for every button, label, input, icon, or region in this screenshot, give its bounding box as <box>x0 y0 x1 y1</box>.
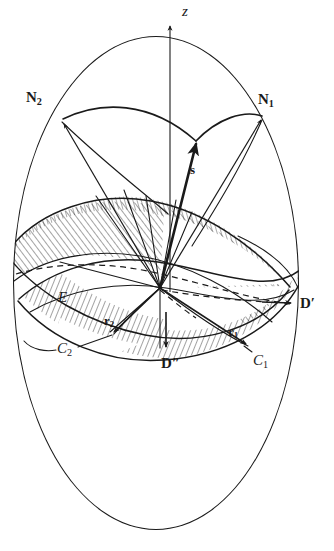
label-c1-subscript: 1 <box>263 359 268 370</box>
d-prime-vector <box>262 302 291 303</box>
figure-root: z N2 N1 s E r2 r1 C2 C1 D′ D″ <box>0 0 334 551</box>
label-r1: r1 <box>228 325 238 340</box>
label-s: s <box>190 163 195 176</box>
label-c2: C2 <box>57 341 72 358</box>
label-c2-subscript: 2 <box>67 347 72 358</box>
label-n1: N1 <box>258 92 274 109</box>
z-axis-label: z <box>182 4 188 19</box>
label-e: E <box>58 290 67 305</box>
sphere-diagram-canvas <box>0 0 334 551</box>
label-r2: r2 <box>104 314 114 329</box>
label-n2: N2 <box>26 90 42 107</box>
label-d-double-prime: D″ <box>161 356 180 371</box>
label-d-prime: D′ <box>300 296 315 311</box>
label-d-prime-mark: ′ <box>311 295 315 311</box>
label-d-double-prime-mark: ″ <box>172 355 180 371</box>
label-r2-subscript: 2 <box>110 319 114 329</box>
label-n2-subscript: 2 <box>37 96 42 107</box>
label-r1-subscript: 1 <box>234 330 238 340</box>
label-c1: C1 <box>253 353 268 370</box>
label-n1-subscript: 1 <box>269 98 274 109</box>
